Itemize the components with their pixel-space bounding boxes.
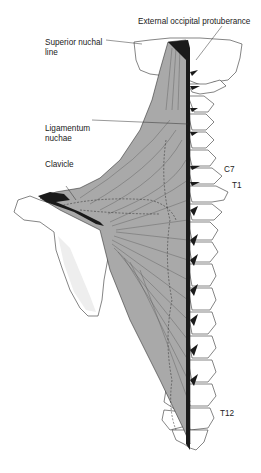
trapezius-diagram: External occipital protuberance Superior… [0,0,261,473]
label-ligamentum-nuchae-2: nuchae [45,134,72,143]
label-ligamentum-nuchae-1: Ligamentum [45,124,90,133]
label-superior-nuchal-line-2: line [45,48,58,57]
label-clavicle: Clavicle [45,160,74,169]
label-t12: T12 [220,409,235,418]
label-t1: T1 [232,181,242,190]
label-c7: C7 [224,165,235,174]
label-superior-nuchal-line-1: Superior nuchal [45,38,103,47]
label-external-occipital-protuberance: External occipital protuberance [138,17,251,26]
